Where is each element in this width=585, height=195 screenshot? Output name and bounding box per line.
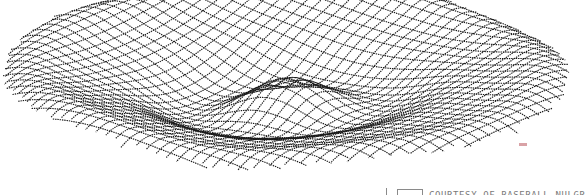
caption-box-mark <box>397 189 423 195</box>
mesh-lines <box>3 0 569 170</box>
caption-rule-mark <box>386 188 391 195</box>
print-artifact-mark <box>519 143 527 146</box>
figure-caption: COURTESY OF BASEBALL NULGR <box>386 188 585 195</box>
caption-text: COURTESY OF BASEBALL NULGR <box>429 188 585 195</box>
